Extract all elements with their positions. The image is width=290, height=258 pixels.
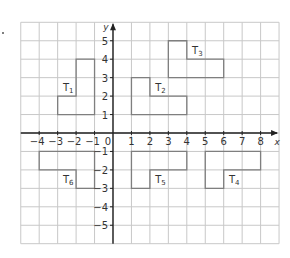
x-tick-label: −4 (30, 136, 45, 147)
shape-label-t2: T2 (154, 82, 166, 95)
y-tick-label: 4 (102, 54, 108, 65)
y-axis-arrow-icon (110, 23, 116, 30)
x-tick-label: −3 (48, 136, 63, 147)
shape-label-t4: T4 (228, 174, 240, 187)
y-tick-label: 2 (102, 91, 108, 102)
y-tick-label: −4 (93, 202, 108, 213)
x-tick-label: 1 (128, 136, 134, 147)
y-tick-label: −5 (93, 220, 108, 231)
x-tick-label: 6 (221, 136, 227, 147)
y-tick-label: 5 (102, 36, 108, 47)
x-tick-label: −2 (67, 136, 82, 147)
coordinate-grid: T1T2T3T4T5T6xy0−4−3−2−11234567854321−1−2… (0, 0, 290, 258)
x-axis-arrow-icon (271, 130, 278, 136)
x-tick-label: 2 (147, 136, 153, 147)
y-axis-label: y (102, 22, 109, 32)
y-tick-label: −2 (93, 165, 108, 176)
shape-label-t6: T6 (62, 174, 74, 187)
y-tick-label: 1 (102, 110, 108, 121)
x-tick-label: 5 (202, 136, 208, 147)
shape-label-t5: T5 (154, 174, 166, 187)
x-tick-label: 4 (184, 136, 190, 147)
x-axis-label: x (273, 137, 280, 147)
x-tick-label: 8 (257, 136, 263, 147)
y-tick-label: −1 (93, 146, 108, 157)
x-tick-label: 7 (239, 136, 245, 147)
shape-label-t3: T3 (191, 45, 203, 58)
shape-label-t1: T1 (62, 82, 74, 95)
origin-label: 0 (105, 136, 111, 147)
y-tick-label: −3 (93, 183, 108, 194)
y-tick-label: 3 (102, 73, 108, 84)
x-tick-label: −1 (85, 136, 100, 147)
x-tick-label: 3 (165, 136, 171, 147)
